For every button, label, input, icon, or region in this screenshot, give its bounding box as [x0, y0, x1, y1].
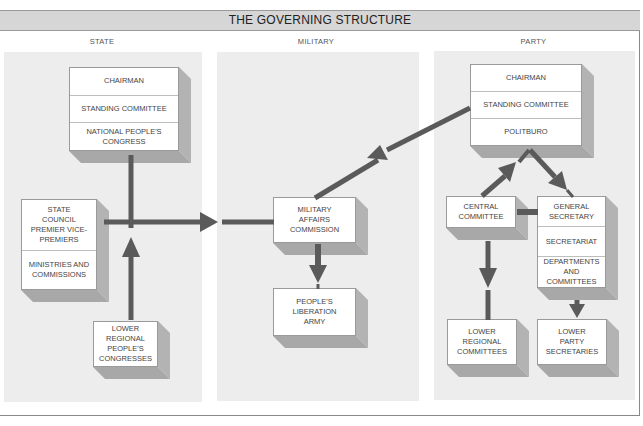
- state-top-box: CHAIRMAN STANDING COMMITTEE NATIONAL PEO…: [69, 67, 179, 151]
- column-label-military: MILITARY: [216, 37, 416, 46]
- box-bottom: [537, 288, 618, 300]
- general-secretary-box: GENERAL SECRETARY SECRETARIAT DEPARTMENT…: [537, 196, 606, 288]
- lower-regional-congresses-box: LOWER REGIONAL PEOPLE'S CONGRESSES: [93, 321, 158, 367]
- box-side: [582, 64, 594, 158]
- state-council-premier-vice-premiers: STATE COUNCIL PREMIER VICE-PREMIERS: [22, 200, 96, 251]
- military-affairs-commission: MILITARY AFFAIRS COMMISSION: [274, 198, 355, 242]
- departments-and-committees: DEPARTMENTS AND COMMITTEES: [538, 257, 605, 287]
- box-bottom: [447, 365, 529, 377]
- column-label-party: PARTY: [432, 37, 635, 46]
- peoples-liberation-army-box: PEOPLE'S LIBERATION ARMY: [273, 288, 356, 336]
- box-bottom: [446, 228, 528, 240]
- diagram-title: THE GOVERNING STRUCTURE: [0, 10, 640, 31]
- central-committee-box: CENTRAL COMMITTEE: [446, 196, 516, 228]
- politburo: POLITBURO: [471, 119, 581, 145]
- peoples-liberation-army: PEOPLE'S LIBERATION ARMY: [274, 289, 355, 335]
- state-council-box: STATE COUNCIL PREMIER VICE-PREMIERS MINI…: [21, 199, 97, 290]
- military-affairs-commission-box: MILITARY AFFAIRS COMMISSION: [273, 197, 356, 243]
- box-bottom: [21, 290, 109, 302]
- state-standing-committee: STANDING COMMITTEE: [70, 96, 178, 124]
- party-top-box: CHAIRMAN STANDING COMMITTEE POLITBURO: [470, 64, 582, 146]
- lower-party-secretaries-box: LOWER PARTY SECRETARIES: [537, 319, 607, 365]
- national-peoples-congress: NATIONAL PEOPLE'S CONGRESS: [70, 123, 178, 150]
- box-side: [179, 67, 191, 163]
- general-secretary: GENERAL SECRETARY: [538, 197, 605, 227]
- column-label-state: STATE: [4, 37, 200, 46]
- party-standing-committee: STANDING COMMITTEE: [471, 92, 581, 119]
- lower-regional-committees-box: LOWER REGIONAL COMMITTEES: [447, 319, 517, 365]
- box-side: [97, 199, 109, 302]
- state-chairman: CHAIRMAN: [70, 68, 178, 96]
- box-bottom: [537, 365, 619, 377]
- lower-regional-committees: LOWER REGIONAL COMMITTEES: [448, 320, 516, 364]
- lower-party-secretaries: LOWER PARTY SECRETARIES: [538, 320, 606, 364]
- lower-regional-peoples-congresses: LOWER REGIONAL PEOPLE'S CONGRESSES: [94, 322, 157, 366]
- central-committee: CENTRAL COMMITTEE: [447, 197, 515, 227]
- box-side: [606, 196, 618, 300]
- ministries-and-commissions: MINISTRIES AND COMMISSIONS: [22, 251, 96, 289]
- box-bottom: [273, 336, 368, 348]
- secretariat: SECRETARIAT: [538, 227, 605, 257]
- party-chairman: CHAIRMAN: [471, 65, 581, 92]
- box-bottom: [93, 367, 170, 379]
